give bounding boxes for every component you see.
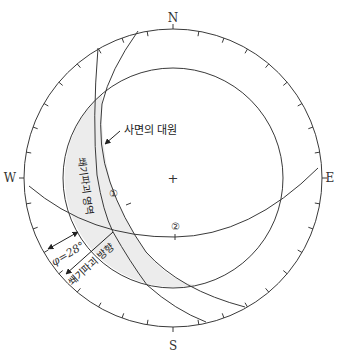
south-label: S [169, 339, 177, 353]
slope-great-circle-label: 사면의 대원 [124, 124, 178, 137]
center-marker: + [168, 171, 179, 186]
stereonet-diagram: + N S W E 사면의 대원 쐐기파괴 영역 ① ② φ=28° 쐐기파괴 … [0, 0, 341, 358]
slope-label-arrow [105, 131, 120, 144]
plane-2-label: ② [171, 221, 180, 232]
tick-plane-1 [126, 203, 131, 205]
west-label: W [4, 171, 17, 185]
east-label: E [326, 171, 335, 185]
north-label: N [168, 11, 179, 25]
plane-1-label: ① [109, 188, 118, 199]
